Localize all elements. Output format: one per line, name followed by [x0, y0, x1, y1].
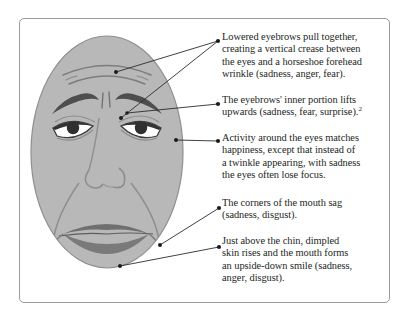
leader-line-eye-corner — [176, 140, 218, 141]
leader-line-forehead — [116, 41, 218, 72]
callout-5-line-1: Just above the chin, dimpled — [222, 235, 388, 247]
callout-1-line-3: the eyes and a horseshoe forehead — [222, 56, 388, 68]
anchor-dot-eye-corner — [174, 138, 178, 142]
bullet-dot-callout-1 — [216, 39, 220, 43]
footnote-marker-2: 2 — [358, 105, 361, 113]
anchor-dot-mouth-corner — [158, 243, 162, 247]
anchor-dot-inner-eyebrow — [125, 111, 129, 115]
bullet-dot-callout-3 — [216, 139, 220, 143]
callout-1-line-2: creating a vertical crease between — [222, 43, 388, 55]
callout-3-line-4: the eyes often lose focus. — [222, 169, 388, 181]
leader-line-chin — [120, 247, 219, 266]
callout-2-line-1: The eyebrows' inner portion lifts — [222, 94, 388, 106]
callout-eyebrows-lowered: Lowered eyebrows pull together, creating… — [222, 31, 388, 81]
anchor-dot-forehead — [114, 70, 118, 74]
callout-2-line-2: upwards (sadness, fear, surprise).2 — [222, 106, 388, 118]
callout-4-line-2: (sadness, disgust). — [222, 209, 388, 221]
callout-3-line-2: happiness, except that instead of — [222, 144, 388, 156]
callout-chin-dimple: Just above the chin, dimpled skin rises … — [222, 235, 388, 285]
leader-line-glabella — [121, 41, 218, 118]
leader-line-mouth-corner — [160, 208, 219, 245]
callout-1-line-1: Lowered eyebrows pull together, — [222, 31, 388, 43]
callout-5-line-3: an upside-down smile (sadness, — [222, 260, 388, 272]
callout-mouth-corners: The corners of the mouth sag (sadness, d… — [222, 197, 388, 222]
leader-line-inner-eyebrow — [127, 104, 218, 113]
figure-page: Lowered eyebrows pull together, creating… — [0, 0, 409, 323]
callout-3-line-1: Activity around the eyes matches — [222, 132, 388, 144]
callout-5-line-2: skin rises and the mouth forms — [222, 247, 388, 259]
bullet-dot-callout-4 — [217, 206, 221, 210]
callout-eye-activity: Activity around the eyes matches happine… — [222, 132, 388, 182]
anchor-dot-chin-dimple — [118, 264, 122, 268]
bullet-dot-callout-2 — [216, 102, 220, 106]
bullet-dot-callout-5 — [217, 245, 221, 249]
callout-4-line-1: The corners of the mouth sag — [222, 197, 388, 209]
callout-1-line-4: wrinkle (sadness, anger, fear). — [222, 68, 388, 80]
callout-eyebrow-inner-lift: The eyebrows' inner portion lifts upward… — [222, 94, 388, 119]
callout-5-line-4: anger, disgust). — [222, 272, 388, 284]
callout-2-line-2-text: upwards (sadness, fear, surprise). — [222, 106, 358, 117]
anchor-dot-glabella — [119, 116, 123, 120]
callout-3-line-3: a twinkle appearing, with sadness — [222, 157, 388, 169]
